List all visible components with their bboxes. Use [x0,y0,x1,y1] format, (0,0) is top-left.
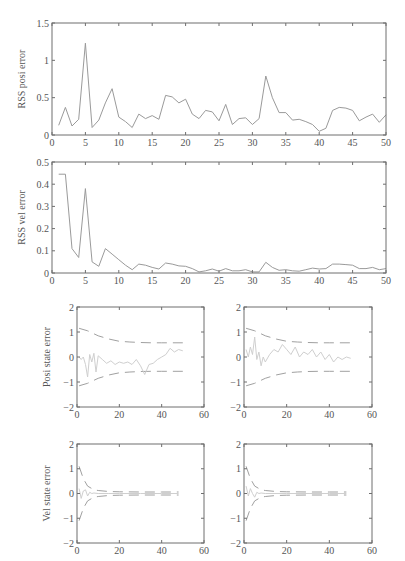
data-line [59,43,386,131]
x-tick-label: 0 [50,137,55,148]
bound-line [79,466,179,492]
bound-line [79,495,179,521]
x-tick-label: 40 [324,545,334,556]
x-tick-label: 25 [214,137,224,148]
y-tick-label: 0 [69,352,74,363]
data-line [79,489,179,499]
x-tick-label: 60 [367,545,377,556]
y-tick-label: −2 [63,402,74,413]
x-tick-label: 30 [247,275,257,286]
x-tick-label: 40 [157,409,167,420]
x-tick-label: 60 [367,409,377,420]
x-tick-label: 60 [199,409,209,420]
y-tick-label: −1 [230,513,241,524]
y-tick-label: 1 [44,55,49,66]
y-axis-title: Vel state error [41,465,52,522]
y-tick-label: 2 [69,439,74,450]
x-tick-label: 25 [214,275,224,286]
y-axis-title: RSS vel error [16,190,27,245]
x-tick-label: 0 [75,409,80,420]
figure-canvas: 0510152025303540455000.511.5RSS posi err… [0,0,405,561]
y-tick-label: 1 [236,327,241,338]
x-tick-label: 20 [114,409,124,420]
bound-line [246,371,351,386]
y-tick-label: −1 [230,377,241,388]
y-axis-title: Posi state error [41,326,52,387]
x-tick-label: 20 [181,137,191,148]
x-tick-label: 40 [324,409,334,420]
x-tick-label: 5 [83,137,88,148]
bound-line [246,466,346,492]
data-line [246,337,351,366]
data-line [59,174,386,272]
y-tick-label: 1 [236,463,241,474]
x-tick-label: 20 [282,409,292,420]
y-tick-label: 1 [69,327,74,338]
x-tick-label: 40 [314,137,324,148]
y-tick-label: −2 [230,402,241,413]
y-tick-label: −2 [230,538,241,549]
y-tick-label: 0.5 [37,92,50,103]
y-tick-label: 0 [44,268,49,279]
chart-rss-vel: 0510152025303540455000.10.20.30.40.5RSS … [16,157,391,287]
x-tick-label: 20 [114,545,124,556]
y-tick-label: 2 [236,302,241,313]
y-tick-label: −1 [63,377,74,388]
axes-frame [77,307,204,407]
x-tick-label: 40 [157,545,167,556]
x-tick-label: 0 [75,545,80,556]
x-tick-label: 45 [348,275,358,286]
x-tick-label: 10 [114,137,124,148]
y-tick-label: 0.3 [37,201,50,212]
x-tick-label: 35 [281,275,291,286]
chart-vel-state-1: 0204060−2−1012Vel state error [41,439,209,557]
x-tick-label: 45 [348,137,358,148]
y-tick-label: 0.5 [37,157,50,168]
y-tick-label: −2 [63,538,74,549]
y-tick-label: −1 [63,513,74,524]
x-tick-label: 0 [242,409,247,420]
chart-vel-state-2: 0204060−2−1012 [230,439,377,557]
x-tick-label: 50 [381,137,391,148]
x-tick-label: 20 [282,545,292,556]
bound-line [246,495,346,521]
y-tick-label: 0.4 [37,179,50,190]
x-tick-label: 35 [281,137,291,148]
x-tick-label: 40 [314,275,324,286]
chart-posi-state-1: 0204060−2−1012Posi state error [41,302,209,421]
y-tick-label: 2 [69,302,74,313]
x-tick-label: 10 [114,275,124,286]
bound-line [79,328,183,343]
x-tick-label: 30 [247,137,257,148]
x-tick-label: 0 [50,275,55,286]
y-tick-label: 0 [69,488,74,499]
y-tick-label: 0.2 [37,223,50,234]
chart-rss-posi: 0510152025303540455000.511.5RSS posi err… [16,18,391,149]
x-tick-label: 5 [83,275,88,286]
y-tick-label: 1 [69,463,74,474]
y-tick-label: 0 [236,488,241,499]
axes-frame [52,23,386,135]
bound-line [246,328,351,343]
x-tick-label: 20 [181,275,191,286]
y-tick-label: 1.5 [37,18,50,29]
y-tick-label: 2 [236,439,241,450]
chart-posi-state-2: 0204060−2−1012 [230,302,377,421]
y-tick-label: 0 [236,352,241,363]
y-axis-title: RSS posi error [16,49,27,109]
x-tick-label: 60 [199,545,209,556]
y-tick-label: 0 [44,130,49,141]
bound-line [79,371,183,386]
x-tick-label: 0 [242,545,247,556]
y-tick-label: 0.1 [37,245,50,256]
x-tick-label: 15 [147,275,157,286]
x-tick-label: 15 [147,137,157,148]
data-line [79,348,183,377]
x-tick-label: 50 [381,275,391,286]
